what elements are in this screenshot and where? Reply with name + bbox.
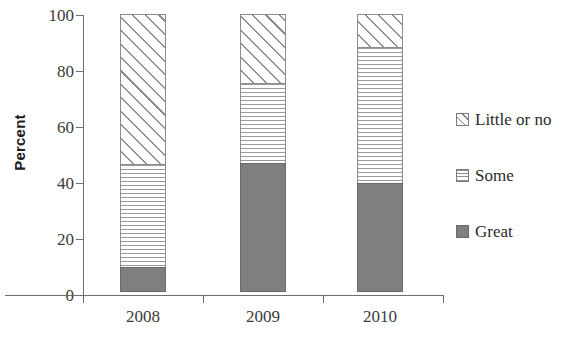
x-axis-line xyxy=(5,295,443,296)
x-tick-mark-start xyxy=(83,295,84,303)
y-tick-mark-20 xyxy=(76,239,84,240)
x-tick-mark-end xyxy=(443,295,444,303)
y-axis-tick-labels: 100 80 60 40 20 0 xyxy=(28,0,74,340)
bar-2010-segment-great xyxy=(357,183,403,292)
legend-label-great: Great xyxy=(475,223,513,240)
legend-item-some: Some xyxy=(456,168,584,182)
y-tick-mark-60 xyxy=(76,127,84,128)
bar-2009-segment-some xyxy=(240,83,286,164)
solid-gray-swatch-icon xyxy=(456,225,469,238)
y-tick-label-40: 40 xyxy=(30,175,74,192)
diagonal-hatch-swatch-icon xyxy=(456,113,469,126)
horizontal-lines-swatch-icon xyxy=(456,169,469,182)
x-category-label-2010: 2010 xyxy=(335,307,425,327)
x-category-label-2009: 2009 xyxy=(218,307,308,327)
bar-2009 xyxy=(240,15,286,295)
y-tick-label-100: 100 xyxy=(30,7,74,24)
legend-label-some: Some xyxy=(475,167,514,184)
bar-2010-segment-little-or-no xyxy=(357,14,403,48)
y-axis-line xyxy=(83,15,84,296)
legend-item-little-or-no: Little or no xyxy=(456,112,584,126)
y-tick-mark-100 xyxy=(76,15,84,16)
y-tick-label-80: 80 xyxy=(30,63,74,80)
bar-2008-segment-some xyxy=(120,164,166,268)
bar-2009-segment-little-or-no xyxy=(240,14,286,84)
x-category-label-2008: 2008 xyxy=(98,307,188,327)
bar-2010 xyxy=(357,15,403,295)
bar-2010-segment-some xyxy=(357,47,403,184)
legend-label-little-or-no: Little or no xyxy=(475,111,551,128)
x-tick-mark-2 xyxy=(323,295,324,303)
y-tick-label-20: 20 xyxy=(30,231,74,248)
y-tick-label-60: 60 xyxy=(30,119,74,136)
chart-legend: Little or no Some Great xyxy=(456,112,584,280)
y-tick-mark-80 xyxy=(76,71,84,72)
y-axis-title: Percent xyxy=(11,98,28,188)
bar-2008 xyxy=(120,15,166,295)
legend-item-great: Great xyxy=(456,224,584,238)
x-tick-mark-1 xyxy=(203,295,204,303)
bar-2008-segment-great xyxy=(120,267,166,292)
y-tick-mark-40 xyxy=(76,183,84,184)
stacked-bar-chart: Percent 100 80 60 40 20 0 2008 2009 2010 xyxy=(0,0,584,340)
bar-2008-segment-little-or-no xyxy=(120,14,166,165)
bar-2009-segment-great xyxy=(240,163,286,292)
